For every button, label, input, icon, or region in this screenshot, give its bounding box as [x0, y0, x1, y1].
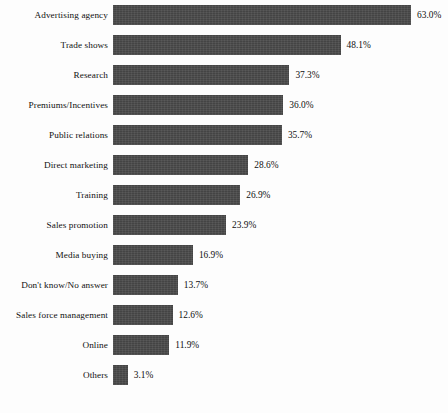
bar-track: 16.9%	[113, 245, 448, 265]
bar-row: Sales promotion23.9%	[0, 215, 448, 245]
bar-track: 63.0%	[113, 5, 448, 25]
bar	[113, 5, 411, 25]
bar-value-label: 13.7%	[184, 275, 208, 295]
bar-category-label: Online	[0, 335, 108, 355]
bar-track: 48.1%	[113, 35, 448, 55]
bar-category-label: Advertising agency	[0, 5, 108, 25]
bar-track: 12.6%	[113, 305, 448, 325]
bar-value-label: 36.0%	[289, 95, 313, 115]
bar	[113, 305, 173, 325]
bar-rows-container: Advertising agency63.0%Trade shows48.1%R…	[0, 5, 448, 395]
bar-category-label: Research	[0, 65, 108, 85]
bar-row: Premiums/Incentives36.0%	[0, 95, 448, 125]
bar-category-label: Media buying	[0, 245, 108, 265]
bar	[113, 95, 283, 115]
bar-row: Others3.1%	[0, 365, 448, 395]
bar-track: 28.6%	[113, 155, 448, 175]
bar-track: 11.9%	[113, 335, 448, 355]
bar-row: Online11.9%	[0, 335, 448, 365]
horizontal-bar-chart: Advertising agency63.0%Trade shows48.1%R…	[0, 0, 448, 413]
bar-category-label: Public relations	[0, 125, 108, 145]
bar-value-label: 16.9%	[199, 245, 223, 265]
bar-row: Media buying16.9%	[0, 245, 448, 275]
bar-value-label: 63.0%	[417, 5, 441, 25]
bar-category-label: Training	[0, 185, 108, 205]
bar-category-label: Don't know/No answer	[0, 275, 108, 295]
bar-row: Don't know/No answer13.7%	[0, 275, 448, 305]
bar	[113, 65, 289, 85]
bar-value-label: 23.9%	[232, 215, 256, 235]
bar	[113, 335, 169, 355]
bar-value-label: 48.1%	[347, 35, 371, 55]
bar-track: 37.3%	[113, 65, 448, 85]
bar-category-label: Others	[0, 365, 108, 385]
bar-value-label: 12.6%	[179, 305, 203, 325]
bar-track: 26.9%	[113, 185, 448, 205]
bar-track: 23.9%	[113, 215, 448, 235]
bar	[113, 245, 193, 265]
bar-row: Sales force management12.6%	[0, 305, 448, 335]
bar-value-label: 26.9%	[246, 185, 270, 205]
bar-track: 35.7%	[113, 125, 448, 145]
bar-value-label: 35.7%	[288, 125, 312, 145]
bar	[113, 215, 226, 235]
bar-category-label: Sales promotion	[0, 215, 108, 235]
bar-row: Research37.3%	[0, 65, 448, 95]
bar-track: 36.0%	[113, 95, 448, 115]
bar-category-label: Trade shows	[0, 35, 108, 55]
bar-category-label: Premiums/Incentives	[0, 95, 108, 115]
bar	[113, 35, 341, 55]
bar	[113, 125, 282, 145]
bar-value-label: 28.6%	[254, 155, 278, 175]
bar	[113, 275, 178, 295]
bar-row: Advertising agency63.0%	[0, 5, 448, 35]
bar-value-label: 37.3%	[295, 65, 319, 85]
bar	[113, 185, 240, 205]
bar-category-label: Sales force management	[0, 305, 108, 325]
bar-track: 13.7%	[113, 275, 448, 295]
bar-value-label: 3.1%	[134, 365, 154, 385]
bar-category-label: Direct marketing	[0, 155, 108, 175]
bar-row: Direct marketing28.6%	[0, 155, 448, 185]
bar-value-label: 11.9%	[175, 335, 199, 355]
bar	[113, 365, 128, 385]
bar-track: 3.1%	[113, 365, 448, 385]
bar-row: Trade shows48.1%	[0, 35, 448, 65]
bar-row: Public relations35.7%	[0, 125, 448, 155]
bar-row: Training26.9%	[0, 185, 448, 215]
bar	[113, 155, 248, 175]
